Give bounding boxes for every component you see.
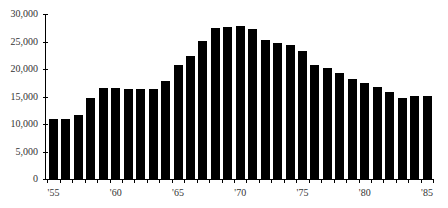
y-tick-mark (43, 69, 48, 70)
bar-1976 (310, 65, 319, 179)
y-tick-label: 20,000 (11, 64, 39, 74)
x-tick-mark (184, 179, 185, 183)
x-tick-mark (371, 179, 372, 183)
x-tick-label: '70 (234, 188, 246, 198)
y-tick-label: 10,000 (11, 119, 39, 129)
x-tick-mark (421, 179, 422, 183)
y-tick-label: 15,000 (11, 92, 39, 102)
bar-1964 (161, 81, 170, 179)
y-tick-label: 0 (33, 174, 38, 184)
x-tick-mark (134, 179, 135, 183)
bar-1957 (74, 115, 83, 179)
bar-1963 (149, 89, 158, 179)
bar-1977 (323, 68, 332, 179)
bar-1958 (86, 98, 95, 179)
x-tick-mark (85, 179, 86, 183)
x-tick-label: '60 (110, 188, 122, 198)
y-tick-label: 30,000 (11, 9, 39, 19)
y-tick-mark (43, 42, 48, 43)
bar-1967 (198, 41, 207, 179)
x-tick-mark (396, 179, 397, 183)
bar-1983 (398, 98, 407, 179)
bar-1982 (385, 92, 394, 179)
x-tick-mark (159, 179, 160, 183)
bar-1975 (298, 51, 307, 179)
bar-1969 (223, 27, 232, 179)
x-tick-mark (334, 179, 335, 183)
bar-1956 (61, 119, 70, 180)
bar-1979 (348, 79, 357, 179)
x-tick-label: '55 (48, 188, 60, 198)
bar-1984 (410, 96, 419, 179)
x-tick-mark (110, 179, 111, 183)
x-axis-line (45, 179, 433, 180)
x-tick-mark (97, 179, 98, 183)
bar-1966 (186, 56, 195, 179)
bar-1981 (373, 87, 382, 179)
x-tick-mark (346, 179, 347, 183)
y-tick-mark (43, 124, 48, 125)
y-tick-mark (43, 14, 48, 15)
bar-1959 (99, 88, 108, 179)
x-tick-mark (259, 179, 260, 183)
x-tick-mark (222, 179, 223, 183)
bar-1960 (111, 88, 120, 179)
bar-1973 (273, 43, 282, 179)
y-tick-mark (43, 97, 48, 98)
x-tick-mark (359, 179, 360, 183)
y-tick-label: 25,000 (11, 37, 39, 47)
x-tick-mark (321, 179, 322, 183)
x-tick-mark (234, 179, 235, 183)
bar-1980 (360, 83, 369, 179)
y-tick-label: 5,000 (16, 147, 39, 157)
x-tick-label: '85 (421, 188, 433, 198)
x-tick-mark (72, 179, 73, 183)
x-tick-mark (246, 179, 247, 183)
bar-1971 (248, 29, 257, 179)
x-tick-mark (172, 179, 173, 183)
x-tick-mark (197, 179, 198, 183)
x-tick-mark (60, 179, 61, 183)
x-tick-mark (209, 179, 210, 183)
x-tick-mark (296, 179, 297, 183)
bar-1972 (261, 40, 270, 179)
x-tick-mark (147, 179, 148, 183)
bar-chart: 05,00010,00015,00020,00025,00030,000 '55… (0, 0, 448, 208)
x-tick-mark (271, 179, 272, 183)
bar-1962 (136, 89, 145, 179)
bar-1968 (211, 28, 220, 179)
x-tick-mark (408, 179, 409, 183)
bar-1978 (335, 73, 344, 179)
bar-1985 (423, 96, 432, 179)
x-tick-mark (47, 179, 48, 183)
x-tick-mark (122, 179, 123, 183)
bar-1961 (124, 89, 133, 179)
x-tick-mark (433, 179, 434, 183)
x-tick-mark (284, 179, 285, 183)
bar-1955 (49, 119, 58, 180)
x-tick-label: '65 (172, 188, 184, 198)
bar-1970 (236, 26, 245, 179)
y-tick-mark (43, 152, 48, 153)
x-tick-mark (383, 179, 384, 183)
x-tick-label: '80 (359, 188, 371, 198)
bar-1974 (286, 45, 295, 179)
x-tick-label: '75 (297, 188, 309, 198)
bar-1965 (174, 65, 183, 179)
x-tick-mark (309, 179, 310, 183)
